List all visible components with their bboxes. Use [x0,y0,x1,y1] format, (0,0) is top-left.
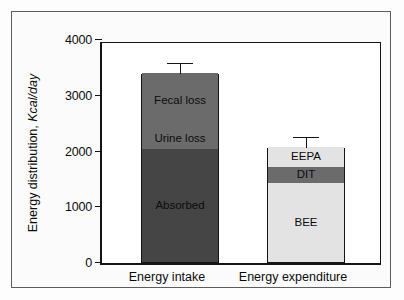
error-bar-line [306,138,307,149]
bar-segment-fecal-loss[interactable]: Fecal loss [142,73,218,129]
bar-energy-expenditure[interactable]: BEEDITEEPA [267,148,345,263]
y-axis-tick [95,206,102,207]
bar-segment-label: Urine loss [154,133,205,145]
plot-area: 01000200030004000 AbsorbedUrine lossFeca… [100,42,381,265]
bar-segment-eepa[interactable]: EEPA [268,147,344,167]
bar-segment-bee[interactable]: BEE [268,183,344,262]
y-axis-title: Energy distribution, Kcal/day [26,74,40,232]
y-axis-tick [95,39,102,40]
figure-canvas: Energy distribution, Kcal/day 0100020003… [0,0,404,300]
error-bar-line [180,64,181,74]
bar-segment-label: BEE [294,217,317,229]
y-axis-tick-label: 3000 [65,89,92,103]
x-axis-label: Energy intake [129,270,205,284]
bar-segment-label: Fecal loss [154,95,206,107]
y-axis-tick [95,262,102,263]
error-bar-cap [293,137,319,138]
y-axis-tick [95,151,102,152]
x-axis-label: Energy expenditure [239,270,347,284]
y-axis-tick-label: 1000 [65,200,92,214]
y-axis-title-units: Kcal/day [26,74,40,122]
bar-segment-absorbed[interactable]: Absorbed [142,149,218,262]
y-axis-title-plain: Energy distribution, [26,122,40,232]
bar-segment-urine-loss[interactable]: Urine loss [142,129,218,149]
error-bar-cap [167,63,193,64]
y-axis-tick-label: 4000 [65,33,92,47]
bar-segment-label: Absorbed [155,200,204,212]
bar-segment-label: EEPA [291,151,321,163]
y-axis-tick-label: 2000 [65,145,92,159]
y-axis-tick [95,95,102,96]
bar-segment-dit[interactable]: DIT [268,167,344,183]
bar-energy-intake[interactable]: AbsorbedUrine lossFecal loss [141,74,219,263]
y-axis-tick-label: 0 [85,256,92,270]
bar-segment-label: DIT [297,169,316,181]
figure-frame: Energy distribution, Kcal/day 0100020003… [11,11,391,288]
